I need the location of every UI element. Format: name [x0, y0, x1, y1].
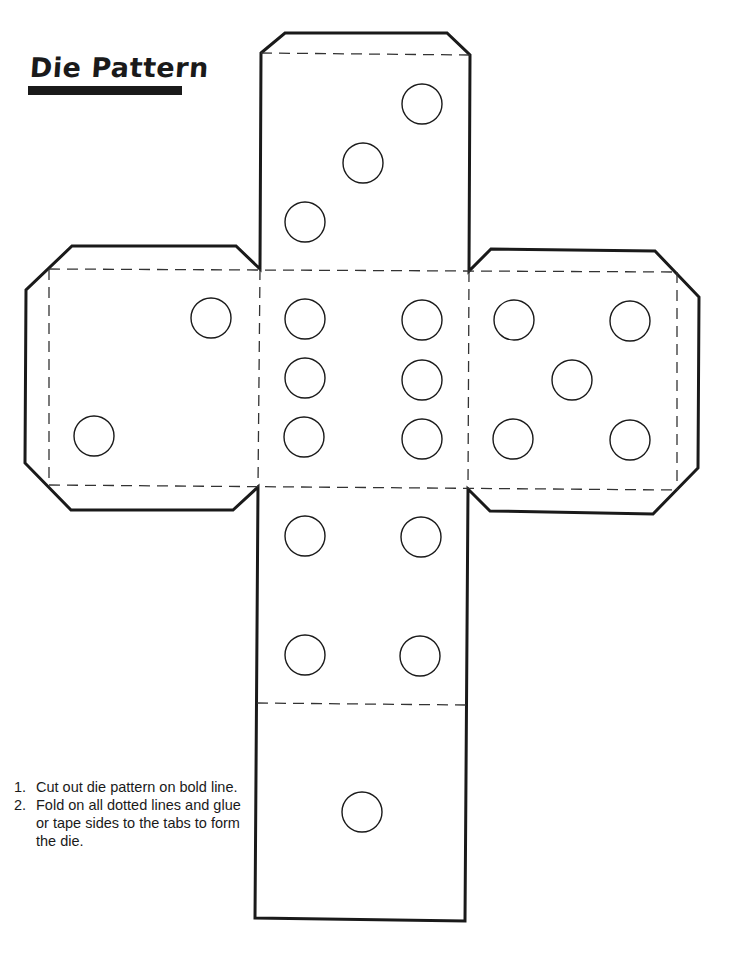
center-face	[284, 299, 442, 459]
pip	[284, 417, 324, 457]
pip	[610, 301, 650, 341]
pip	[610, 420, 650, 460]
pip	[493, 419, 533, 459]
lower-face	[285, 516, 441, 676]
instruction-text: Fold on all dotted lines and glue or tap…	[36, 797, 241, 849]
pip	[343, 143, 383, 183]
instructions-list: 1. Cut out die pattern on bold line. 2. …	[14, 778, 244, 850]
instruction-text: Cut out die pattern on bold line.	[36, 779, 238, 795]
pip	[285, 516, 325, 556]
pip	[74, 416, 114, 456]
bottom-face	[342, 792, 382, 832]
instruction-number: 1.	[14, 778, 26, 796]
instruction-item: 1. Cut out die pattern on bold line.	[14, 778, 244, 796]
pip	[402, 419, 442, 459]
pip	[285, 635, 325, 675]
pip	[402, 360, 442, 400]
pip	[402, 300, 442, 340]
left-face	[74, 298, 231, 456]
pip	[552, 360, 592, 400]
pip	[401, 517, 441, 557]
pip	[342, 792, 382, 832]
pip	[400, 636, 440, 676]
instruction-item: 2. Fold on all dotted lines and glue or …	[14, 796, 244, 850]
top-face	[285, 84, 442, 242]
pip	[285, 299, 325, 339]
pip	[494, 300, 534, 340]
pip	[191, 298, 231, 338]
pip	[285, 358, 325, 398]
pip	[285, 202, 325, 242]
instruction-number: 2.	[14, 796, 26, 814]
right-face	[493, 300, 650, 460]
pip	[402, 84, 442, 124]
fold-lines	[49, 53, 677, 705]
